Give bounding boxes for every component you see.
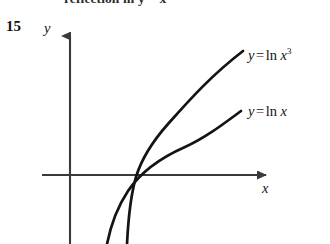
curve-label-ln-x-var: x xyxy=(281,103,287,119)
curve-label-ln-x-fn: ln xyxy=(266,103,277,119)
curve-label-ln-x-cubed-equals: = xyxy=(254,47,265,63)
curve-label-ln-x-cubed-fn: ln xyxy=(266,47,277,63)
y-axis-label: y xyxy=(44,20,50,37)
curve-label-ln-x-cubed: y=ln x3 xyxy=(248,47,291,64)
curve-label-ln-x: y=ln x xyxy=(248,103,287,120)
x-axis-label: x xyxy=(262,180,268,197)
graph-figure: y x y=ln x3 y=ln x xyxy=(0,0,330,244)
curve-label-ln-x-cubed-exponent: 3 xyxy=(287,46,292,56)
curve-label-ln-x-equals: = xyxy=(254,103,265,119)
